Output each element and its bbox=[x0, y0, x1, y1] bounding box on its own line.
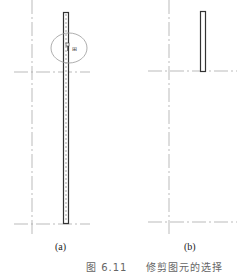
svg-text:⊞: ⊞ bbox=[72, 45, 77, 52]
panel-b-label: (b) bbox=[184, 241, 196, 252]
figure-title: 修剪图元的选择 bbox=[146, 262, 223, 273]
panel-b-drawing bbox=[148, 0, 237, 236]
panel-a-drawing: ⊞ bbox=[14, 0, 90, 236]
figure-drawing: ⊞ bbox=[0, 0, 237, 273]
figure-caption: 图 6.11 修剪图元的选择 bbox=[86, 259, 223, 273]
panel-b-trimmed-element[interactable] bbox=[201, 12, 206, 72]
figure-number: 图 6.11 bbox=[86, 262, 127, 273]
trim-cursor-icon: ⊞ bbox=[66, 43, 77, 52]
panel-a-label: (a) bbox=[55, 241, 66, 252]
